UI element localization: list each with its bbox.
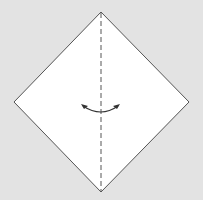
origami-diagram	[0, 0, 203, 200]
diagram-canvas	[0, 0, 203, 200]
